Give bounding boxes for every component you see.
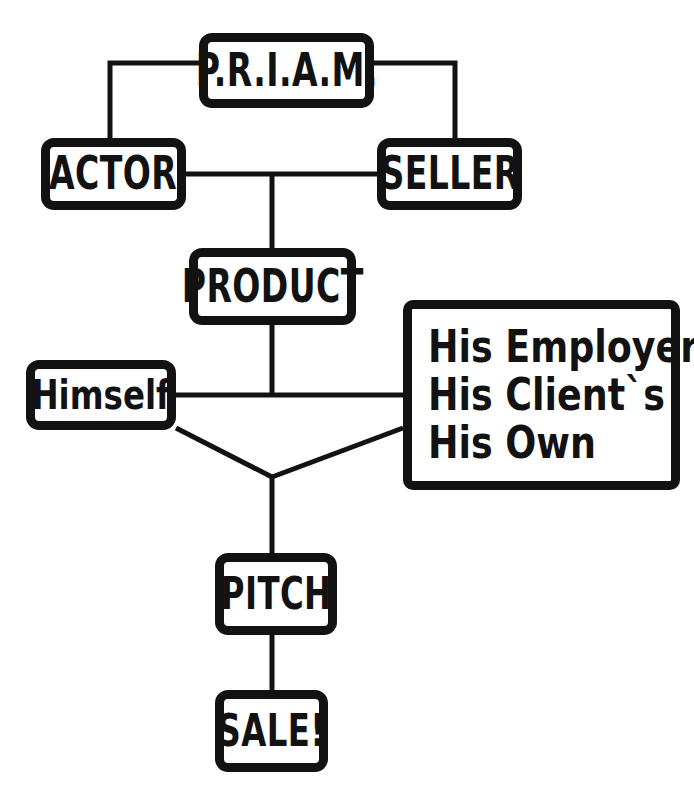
edge-options-vertex <box>272 428 403 477</box>
node-product-label: PRODUCT <box>182 264 364 309</box>
node-actor-label: ACTOR <box>49 151 177 196</box>
node-options-line-1: His Employer`s <box>428 323 647 371</box>
node-options-line-3: His Own <box>428 419 647 467</box>
edge-priam-actor <box>110 63 199 138</box>
node-product[interactable]: PRODUCT <box>189 248 356 325</box>
node-pitch-label: PITCH <box>221 572 332 616</box>
node-himself-label: Himself <box>32 375 171 415</box>
edge-himself-vertex <box>176 428 272 477</box>
node-sale-label: SALE! <box>218 709 326 753</box>
node-pitch[interactable]: PITCH <box>215 553 337 635</box>
node-sale[interactable]: SALE! <box>215 690 328 772</box>
node-options-line-2: His Client`s <box>428 371 647 419</box>
node-priam[interactable]: P.R.I.A.M. <box>199 33 374 108</box>
node-himself[interactable]: Himself <box>26 360 176 430</box>
node-seller-label: SELLER <box>380 151 519 196</box>
node-seller[interactable]: SELLER <box>377 138 522 210</box>
node-priam-label: P.R.I.A.M. <box>195 48 377 93</box>
node-options[interactable]: His Employer`s His Client`s His Own <box>403 300 680 490</box>
node-actor[interactable]: ACTOR <box>41 138 186 210</box>
edge-priam-seller <box>374 63 455 138</box>
diagram-canvas: P.R.I.A.M. ACTOR SELLER PRODUCT Himself … <box>0 0 694 796</box>
